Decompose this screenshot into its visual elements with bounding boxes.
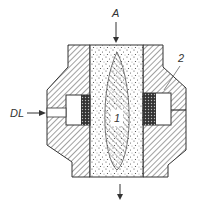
- left-mesh: [81, 95, 90, 125]
- left-port: [47, 108, 66, 117]
- label-a: A: [111, 7, 119, 19]
- label-1: 1: [114, 112, 120, 124]
- diagram: A DL 1 2: [0, 0, 199, 209]
- arrow-down-icon: [113, 37, 119, 43]
- label-dl: DL: [10, 107, 24, 119]
- right-mesh: [143, 93, 156, 125]
- arrow-right-icon: [39, 110, 46, 116]
- arrow-down-icon: [117, 194, 123, 200]
- label-2: 2: [177, 52, 184, 64]
